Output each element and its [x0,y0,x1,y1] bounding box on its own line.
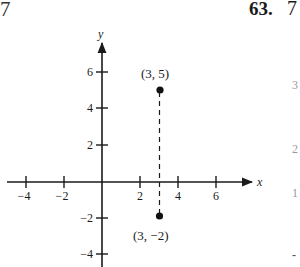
y-axis-label: y [97,27,104,41]
x-tick-label: 2 [137,189,143,203]
y-tick-label: −2 [80,211,93,225]
x-axis-label: x [256,175,263,189]
y-tick-label: 6 [87,65,93,79]
y-tick-label: 2 [87,138,93,152]
y-tick-label: −4 [80,247,93,261]
x-tick-label: 6 [213,189,219,203]
x-tick-label: −4 [18,189,31,203]
x-tick-label: 4 [175,189,181,203]
point-3-5 [156,86,163,93]
x-tick-label: −2 [56,189,69,203]
point-3-neg2 [156,212,163,219]
coordinate-plane: x y −4 −2 2 4 6 6 4 2 −2 −4 (3, 5) (3, −… [0,0,300,267]
point-label-3-neg2: (3, −2) [133,228,169,243]
x-tick-labels: −4 −2 2 4 6 [18,189,219,203]
point-label-3-5: (3, 5) [141,66,169,81]
y-tick-labels: 6 4 2 −2 −4 [80,65,93,261]
y-tick-label: 4 [87,101,93,115]
